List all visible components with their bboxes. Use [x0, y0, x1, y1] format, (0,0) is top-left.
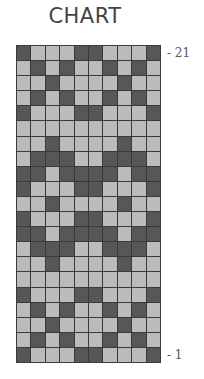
chart-cell-r14-c2 [31, 152, 44, 166]
chart-cell-r13-c1 [17, 167, 30, 181]
chart-cell-r21-c9 [132, 46, 145, 60]
chart-cell-r5-c1 [17, 288, 30, 302]
chart-cell-r10-c4 [60, 212, 73, 226]
chart-cell-r8-c5 [75, 242, 88, 256]
chart-cell-r14-c3 [46, 152, 59, 166]
chart-cell-r3-c8 [118, 318, 131, 332]
chart-cell-r15-c9 [132, 137, 145, 151]
chart-cell-r13-c6 [89, 167, 102, 181]
chart-cell-r3-c5 [75, 318, 88, 332]
chart-cell-r1-c5 [75, 348, 88, 362]
chart-cell-r4-c2 [31, 303, 44, 317]
chart-cell-r4-c4 [60, 303, 73, 317]
chart-cell-r19-c3 [46, 76, 59, 90]
chart-cell-r2-c5 [75, 333, 88, 347]
chart-cell-r18-c9 [132, 91, 145, 105]
chart-cell-r14-c8 [118, 152, 131, 166]
chart-cell-r15-c5 [75, 137, 88, 151]
chart-cell-r19-c1 [17, 76, 30, 90]
chart-cell-r21-c10 [147, 46, 160, 60]
chart-cell-r7-c2 [31, 257, 44, 271]
chart-cell-r14-c5 [75, 152, 88, 166]
chart-cell-r12-c4 [60, 182, 73, 196]
chart-cell-r19-c5 [75, 76, 88, 90]
chart-cell-r9-c9 [132, 227, 145, 241]
chart-cell-r5-c2 [31, 288, 44, 302]
chart-cell-r17-c8 [118, 106, 131, 120]
chart-cell-r4-c6 [89, 303, 102, 317]
chart-cell-r6-c1 [17, 272, 30, 286]
chart-cell-r8-c10 [147, 242, 160, 256]
chart-cell-r16-c4 [60, 121, 73, 135]
chart-cell-r11-c8 [118, 197, 131, 211]
chart-cell-r11-c3 [46, 197, 59, 211]
chart-cell-r17-c7 [103, 106, 116, 120]
chart-cell-r20-c8 [118, 61, 131, 75]
chart-cell-r17-c6 [89, 106, 102, 120]
chart-cell-r10-c3 [46, 212, 59, 226]
chart-cell-r12-c9 [132, 182, 145, 196]
chart-cell-r2-c1 [17, 333, 30, 347]
chart-cell-r2-c10 [147, 333, 160, 347]
chart-cell-r14-c6 [89, 152, 102, 166]
chart-cell-r5-c7 [103, 288, 116, 302]
chart-cell-r12-c6 [89, 182, 102, 196]
chart-cell-r11-c4 [60, 197, 73, 211]
chart-cell-r18-c2 [31, 91, 44, 105]
chart-cell-r8-c1 [17, 242, 30, 256]
chart-cell-r14-c1 [17, 152, 30, 166]
chart-cell-r19-c10 [147, 76, 160, 90]
chart-cell-r16-c7 [103, 121, 116, 135]
chart-cell-r11-c1 [17, 197, 30, 211]
chart-cell-r15-c1 [17, 137, 30, 151]
chart-cell-r13-c9 [132, 167, 145, 181]
chart-cell-r18-c5 [75, 91, 88, 105]
chart-cell-r9-c10 [147, 227, 160, 241]
chart-cell-r10-c2 [31, 212, 44, 226]
chart-cell-r17-c9 [132, 106, 145, 120]
chart-cell-r20-c5 [75, 61, 88, 75]
chart-cell-r11-c2 [31, 197, 44, 211]
chart-cell-r17-c2 [31, 106, 44, 120]
chart-cell-r21-c4 [60, 46, 73, 60]
chart-cell-r4-c1 [17, 303, 30, 317]
chart-cell-r15-c7 [103, 137, 116, 151]
chart-cell-r8-c2 [31, 242, 44, 256]
chart-cell-r12-c5 [75, 182, 88, 196]
row-label-top: - 21 [167, 46, 190, 60]
chart-cell-r12-c1 [17, 182, 30, 196]
chart-cell-r19-c2 [31, 76, 44, 90]
chart-cell-r10-c5 [75, 212, 88, 226]
chart-cell-r17-c10 [147, 106, 160, 120]
chart-cell-r1-c2 [31, 348, 44, 362]
chart-cell-r15-c10 [147, 137, 160, 151]
chart-cell-r5-c10 [147, 288, 160, 302]
chart-cell-r17-c4 [60, 106, 73, 120]
chart-cell-r21-c1 [17, 46, 30, 60]
chart-cell-r11-c7 [103, 197, 116, 211]
chart-cell-r13-c5 [75, 167, 88, 181]
chart-cell-r3-c4 [60, 318, 73, 332]
chart-cell-r10-c1 [17, 212, 30, 226]
chart-cell-r10-c10 [147, 212, 160, 226]
chart-cell-r2-c9 [132, 333, 145, 347]
chart-cell-r16-c1 [17, 121, 30, 135]
chart-cell-r17-c5 [75, 106, 88, 120]
chart-cell-r2-c3 [46, 333, 59, 347]
chart-cell-r20-c3 [46, 61, 59, 75]
chart-cell-r18-c10 [147, 91, 160, 105]
chart-cell-r21-c7 [103, 46, 116, 60]
chart-cell-r8-c9 [132, 242, 145, 256]
chart-cell-r4-c5 [75, 303, 88, 317]
chart-cell-r19-c6 [89, 76, 102, 90]
chart-cell-r18-c3 [46, 91, 59, 105]
chart-cell-r15-c6 [89, 137, 102, 151]
chart-cell-r13-c2 [31, 167, 44, 181]
chart-cell-r8-c7 [103, 242, 116, 256]
chart-cell-r6-c4 [60, 272, 73, 286]
chart-cell-r7-c4 [60, 257, 73, 271]
chart-cell-r7-c7 [103, 257, 116, 271]
chart-cell-r16-c9 [132, 121, 145, 135]
chart-cell-r4-c7 [103, 303, 116, 317]
chart-cell-r6-c10 [147, 272, 160, 286]
